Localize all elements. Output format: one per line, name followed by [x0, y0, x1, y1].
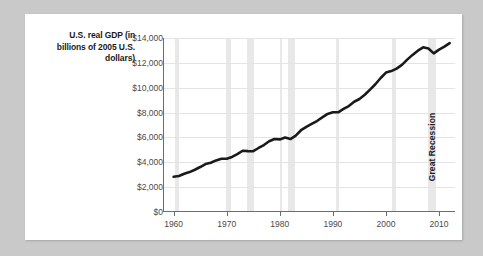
- y-axis-tick-label: $4,000: [115, 157, 163, 167]
- x-axis-line: [163, 211, 455, 212]
- y-axis-tick-label: $12,000: [115, 58, 163, 68]
- x-axis-tick-label: 1960: [164, 219, 183, 229]
- y-axis-tick-label: $10,000: [115, 83, 163, 93]
- y-axis-tick-label: $6,000: [115, 132, 163, 142]
- plot-area: 196019701980199020002010 Great Recession: [163, 38, 455, 212]
- x-axis-tick-label: 1970: [217, 219, 236, 229]
- x-axis-tick: [386, 212, 387, 216]
- great-recession-annotation: Great Recession: [427, 107, 437, 187]
- y-axis-line: [163, 38, 164, 212]
- x-axis-tick: [174, 212, 175, 216]
- x-axis-tick: [439, 212, 440, 216]
- x-axis-tick-label: 1990: [323, 219, 342, 229]
- chart-card: U.S. real GDP (in billions of 2005 U.S. …: [25, 14, 462, 240]
- y-axis-tick-label: $14,000: [115, 33, 163, 43]
- gdp-line-series: [163, 38, 455, 212]
- y-axis-tick-labels: $14,000$12,000$10,000$8,000$6,000$4,000$…: [115, 14, 163, 240]
- x-axis-tick-label: 1980: [270, 219, 289, 229]
- x-axis-tick-label: 2000: [377, 219, 396, 229]
- y-axis-tick-label: $2,000: [115, 182, 163, 192]
- y-axis-tick-label: $8,000: [115, 108, 163, 118]
- x-axis-tick: [333, 212, 334, 216]
- x-axis-tick: [280, 212, 281, 216]
- x-axis-tick-label: 2010: [430, 219, 449, 229]
- y-axis-tick-label: $0: [115, 207, 163, 217]
- x-axis-tick: [227, 212, 228, 216]
